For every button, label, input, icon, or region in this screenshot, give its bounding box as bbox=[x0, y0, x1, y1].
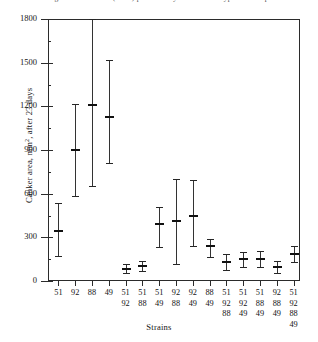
mean-marker bbox=[138, 265, 147, 267]
range-cap-lower bbox=[223, 270, 230, 271]
range-cap-upper bbox=[274, 261, 281, 262]
range-cap-lower bbox=[257, 267, 264, 268]
x-axis-label-part: 88 bbox=[282, 309, 306, 320]
x-axis-title: Strains bbox=[0, 322, 318, 332]
range-cap-lower bbox=[123, 273, 130, 274]
range-cap-lower bbox=[89, 186, 96, 187]
range-cap-upper bbox=[190, 180, 197, 181]
mean-marker bbox=[155, 223, 164, 225]
range-bar bbox=[210, 239, 211, 257]
range-cap-upper bbox=[173, 179, 180, 180]
range-cap-upper bbox=[207, 239, 214, 240]
mean-marker bbox=[206, 245, 215, 247]
range-bar bbox=[92, 19, 93, 186]
range-cap-upper bbox=[139, 261, 146, 262]
range-cap-lower bbox=[156, 247, 163, 248]
range-cap-lower bbox=[173, 264, 180, 265]
mean-marker bbox=[273, 266, 282, 268]
mean-marker bbox=[189, 215, 198, 217]
range-cap-lower bbox=[190, 246, 197, 247]
range-cap-upper bbox=[291, 246, 298, 247]
range-cap-upper bbox=[106, 60, 113, 61]
mean-marker bbox=[256, 258, 265, 260]
mean-marker bbox=[88, 104, 97, 106]
range-cap-upper bbox=[240, 252, 247, 253]
range-cap-upper bbox=[89, 19, 96, 20]
range-cap-lower bbox=[207, 257, 214, 258]
range-cap-lower bbox=[72, 196, 79, 197]
mean-marker bbox=[71, 149, 80, 151]
range-cap-upper bbox=[55, 203, 62, 204]
range-cap-lower bbox=[139, 271, 146, 272]
mean-marker bbox=[290, 253, 299, 255]
mean-marker bbox=[54, 230, 63, 232]
range-cap-upper bbox=[257, 251, 264, 252]
range-cap-upper bbox=[72, 104, 79, 105]
x-axis-label-part: 51 bbox=[282, 288, 306, 299]
mean-marker bbox=[222, 261, 231, 263]
mean-marker bbox=[172, 220, 181, 222]
range-bar bbox=[193, 180, 194, 246]
range-bar bbox=[109, 60, 110, 163]
range-cap-upper bbox=[156, 207, 163, 208]
range-bar bbox=[159, 207, 160, 246]
range-cap-lower bbox=[240, 267, 247, 268]
range-cap-upper bbox=[123, 264, 130, 265]
mean-marker bbox=[239, 258, 248, 260]
range-cap-lower bbox=[106, 163, 113, 164]
x-axis-label-part: 92 bbox=[282, 299, 306, 310]
mean-marker bbox=[105, 116, 114, 118]
range-cap-lower bbox=[55, 256, 62, 257]
figure-canker-area: Fig. 2. Canker area (mm2) produced by is… bbox=[0, 0, 318, 342]
mean-marker bbox=[122, 268, 131, 270]
range-cap-lower bbox=[274, 273, 281, 274]
range-cap-upper bbox=[223, 254, 230, 255]
range-cap-lower bbox=[291, 262, 298, 263]
